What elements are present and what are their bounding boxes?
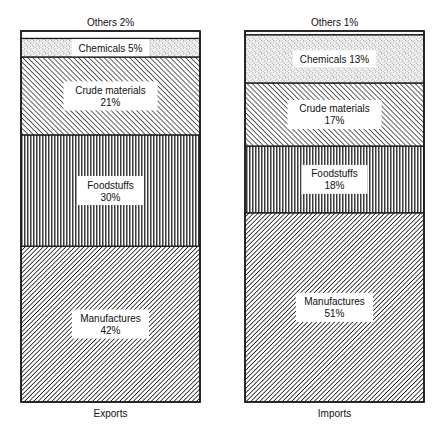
- label-exports-crude-materials-text: Crude materials: [75, 85, 146, 96]
- bar-imports: [245, 31, 424, 402]
- label-exports-foodstuffs-text: Foodstuffs: [87, 180, 134, 191]
- label-imports-foodstuffs: Foodstuffs18%: [302, 165, 368, 194]
- label-exports-manufactures-text: Manufactures: [80, 313, 141, 324]
- label-exports-others: Others 2%: [87, 17, 134, 28]
- label-imports-others: Others 1%: [311, 17, 358, 28]
- label-exports-chemicals-text: Chemicals 5%: [79, 43, 143, 54]
- label-imports-foodstuffs-text: Foodstuffs: [311, 168, 358, 179]
- label-exports-crude-materials-text: 21%: [100, 97, 120, 108]
- category-label-exports: Exports: [94, 408, 128, 419]
- segment-exports-others: [21, 31, 200, 38]
- label-exports-manufactures-text: 42%: [100, 325, 120, 336]
- label-exports-chemicals: Chemicals 5%: [72, 39, 149, 56]
- category-label-imports: Imports: [318, 408, 351, 419]
- label-exports-foodstuffs: Foodstuffs30%: [78, 176, 144, 205]
- label-exports-foodstuffs-text: 30%: [100, 192, 120, 203]
- label-imports-chemicals: Chemicals 13%: [293, 50, 376, 67]
- label-imports-manufactures-text: Manufactures: [304, 296, 365, 307]
- label-exports-crude-materials: Crude materials21%: [64, 81, 158, 110]
- label-imports-crude-materials-text: 17%: [324, 115, 344, 126]
- label-imports-foodstuffs-text: 18%: [324, 180, 344, 191]
- label-imports-manufactures-text: 51%: [324, 308, 344, 319]
- stacked-bar-chart: Manufactures42%Foodstuffs30%Crude materi…: [0, 0, 440, 431]
- label-imports-crude-materials: Crude materials17%: [288, 100, 382, 129]
- label-imports-chemicals-text: Chemicals 13%: [300, 54, 370, 65]
- label-imports-crude-materials-text: Crude materials: [299, 103, 370, 114]
- label-exports-manufactures: Manufactures42%: [72, 310, 149, 339]
- label-imports-manufactures: Manufactures51%: [296, 293, 373, 322]
